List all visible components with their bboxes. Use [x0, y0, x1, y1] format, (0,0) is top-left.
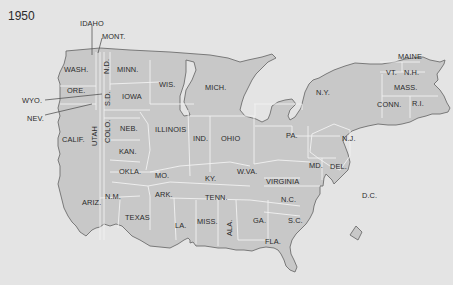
label-ohio: OHIO	[221, 134, 240, 143]
label-colo: COLO.	[103, 120, 112, 144]
label-ore: ORE.	[67, 86, 85, 95]
label-tenn: TENN.	[205, 193, 228, 202]
label-mich: MICH.	[205, 83, 226, 92]
label-illinois: ILLINOIS	[155, 125, 186, 134]
label-utah: UTAH	[90, 126, 99, 146]
label-ny: N.Y.	[316, 88, 330, 97]
label-nh: N.H.	[404, 68, 419, 77]
label-md: MD.	[309, 161, 323, 170]
label-ri: R.I.	[412, 99, 424, 108]
label-kan: KAN.	[119, 147, 137, 156]
map-year-title: 1950	[8, 9, 35, 23]
label-ga: GA.	[253, 216, 266, 225]
label-nd: N.D.	[102, 59, 111, 74]
label-miss: MISS.	[197, 217, 218, 226]
label-okla: OKLA.	[119, 167, 141, 176]
label-neb: NEB.	[120, 124, 138, 133]
label-nj: N.J.	[342, 134, 356, 143]
label-maine: MAINE	[398, 52, 422, 61]
label-iowa: IOWA	[122, 92, 142, 101]
label-fla: FLA.	[265, 237, 281, 246]
label-conn: CONN.	[377, 100, 401, 109]
label-del: DEL.	[330, 162, 347, 171]
label-wash: WASH.	[64, 65, 88, 74]
label-dc: D.C.	[362, 191, 377, 200]
label-wva: W.VA.	[237, 167, 257, 176]
label-nc: N.C.	[281, 195, 296, 204]
label-ind: IND.	[193, 134, 208, 143]
label-wis: WIS.	[159, 80, 175, 89]
label-sd: S.D.	[103, 91, 112, 106]
dc-shape	[350, 226, 362, 240]
label-minn: MINN.	[117, 65, 138, 74]
label-ky: KY.	[205, 174, 216, 183]
label-nev: NEV.	[27, 114, 44, 123]
label-pa: PA.	[286, 131, 298, 140]
label-la: LA.	[175, 221, 186, 230]
label-ark: ARK.	[155, 190, 173, 199]
label-idaho: IDAHO	[80, 19, 104, 28]
label-vt: VT.	[386, 68, 397, 77]
label-texas: TEXAS	[125, 213, 150, 222]
label-mass: MASS.	[394, 83, 418, 92]
label-mont: MONT.	[102, 32, 126, 41]
label-nm: N.M.	[105, 192, 121, 201]
label-sc: S.C.	[288, 216, 303, 225]
cartogram-map: 1950	[0, 0, 453, 285]
label-virginia: VIRGINIA	[266, 177, 299, 186]
label-mo: MO.	[155, 171, 169, 180]
label-calif: CALIF.	[62, 135, 85, 144]
label-ala: ALA.	[225, 220, 234, 236]
label-ariz: ARIZ.	[82, 198, 101, 207]
label-wyo: WYO.	[22, 96, 42, 105]
